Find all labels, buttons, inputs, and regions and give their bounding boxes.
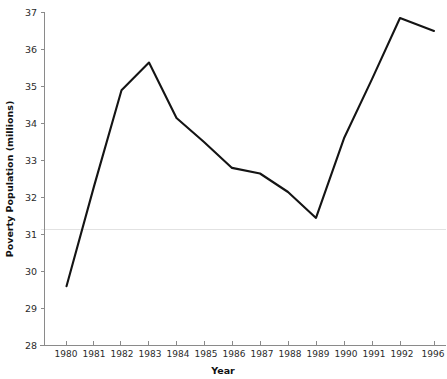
x-tick-label-1986: 1986	[223, 349, 246, 359]
x-axis: 1980 1981 1982 1983 1984 1985 1986 1987 …	[40, 341, 446, 376]
x-tick-label-1985: 1985	[195, 349, 218, 359]
x-tick-label-1992: 1992	[391, 349, 414, 359]
x-tick-label-1980: 1980	[55, 349, 78, 359]
x-axis-title: Year	[210, 365, 235, 376]
x-tick-label-1991: 1991	[363, 349, 386, 359]
x-tick-label-1983: 1983	[139, 349, 162, 359]
y-tick-label-37: 37	[25, 7, 37, 18]
y-tick-label-35: 35	[25, 81, 37, 92]
data-line-poverty-population	[67, 18, 435, 286]
y-axis: 37 36 35 34 33 32 31 30 29 28 Poverty Po…	[4, 7, 45, 351]
poverty-population-line-chart: 37 36 35 34 33 32 31 30 29 28 Poverty Po…	[0, 0, 447, 379]
x-tick-label-1996: 1996	[422, 349, 445, 359]
chart-canvas: 37 36 35 34 33 32 31 30 29 28 Poverty Po…	[0, 0, 447, 379]
y-tick-label-31: 31	[25, 229, 37, 240]
x-tick-label-1982: 1982	[111, 349, 134, 359]
y-tick-label-32: 32	[25, 192, 37, 203]
x-tick-label-1981: 1981	[83, 349, 106, 359]
y-tick-label-30: 30	[25, 266, 37, 277]
y-tick-label-28: 28	[25, 340, 37, 351]
y-tick-label-34: 34	[25, 118, 37, 129]
y-tick-label-29: 29	[25, 303, 37, 314]
y-tick-label-33: 33	[25, 155, 37, 166]
series-group	[67, 18, 435, 286]
x-tick-label-1987: 1987	[251, 349, 274, 359]
y-tick-label-36: 36	[25, 44, 37, 55]
x-tick-label-1988: 1988	[279, 349, 302, 359]
x-tick-label-1990: 1990	[335, 349, 358, 359]
x-tick-label-1989: 1989	[307, 349, 330, 359]
x-tick-label-1984: 1984	[167, 349, 190, 359]
y-axis-title: Poverty Population (millions)	[4, 101, 15, 258]
